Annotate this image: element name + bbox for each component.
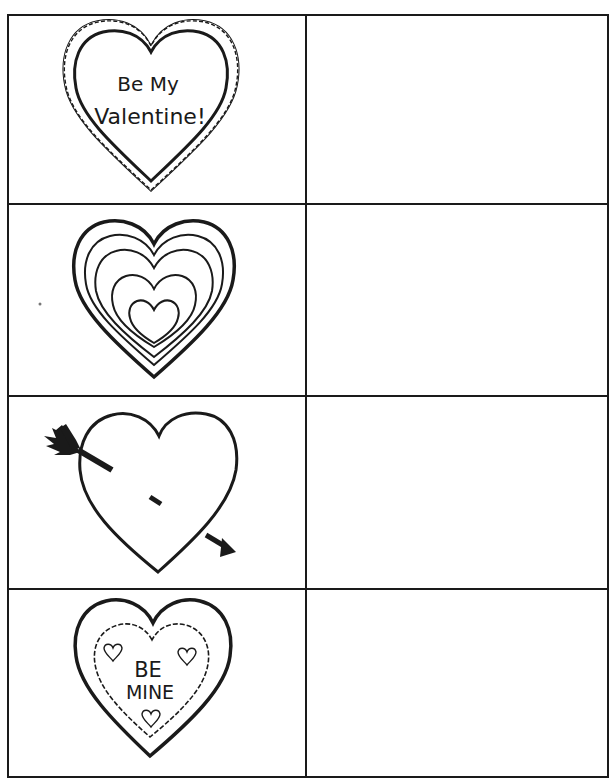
valentine-worksheet: Be My Valentine! BE — [0, 0, 613, 780]
heart-text-mine: MINE — [126, 681, 174, 703]
small-heart-left — [104, 644, 122, 661]
small-heart-bottom — [142, 710, 160, 727]
heart-text-be: BE — [134, 658, 162, 682]
small-heart-right — [178, 648, 196, 665]
be-mine-heart-icon: BE MINE — [0, 0, 613, 780]
